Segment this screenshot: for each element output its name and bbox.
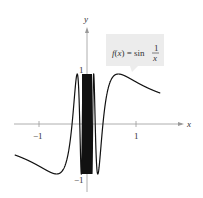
x-axis-label: x [186, 119, 191, 129]
y-tick-label-1: 1 [79, 65, 84, 75]
x-tick-label--1: −1 [33, 131, 43, 141]
function-label-den: x [152, 53, 157, 63]
x-axis-arrow [178, 122, 184, 126]
y-axis-label: y [83, 14, 88, 24]
chart: f(x) = sin 1 x x y −1 1 1 −1 [0, 0, 203, 198]
y-tick-label--1: −1 [74, 175, 84, 185]
function-label-num: 1 [154, 43, 159, 53]
x-tick-label-1: 1 [134, 131, 139, 141]
y-axis-arrow [85, 27, 89, 33]
function-label-lhs: f(x) = sin [112, 48, 145, 58]
callout-pointer [130, 66, 138, 72]
dense-oscillation-band [82, 74, 92, 174]
